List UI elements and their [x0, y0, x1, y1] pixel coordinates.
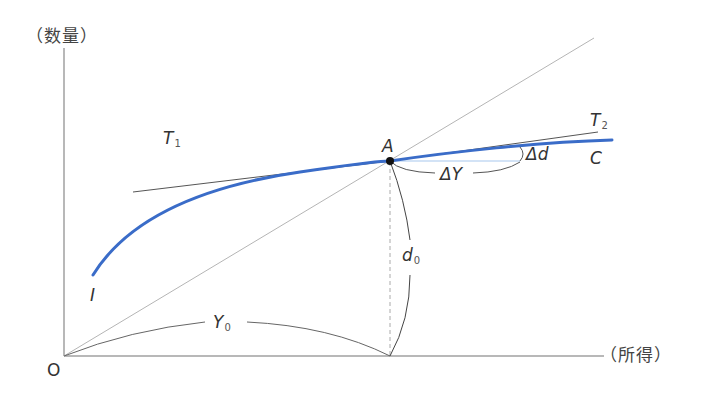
origin-label: O [47, 362, 60, 379]
d0-sub: 0 [414, 255, 420, 266]
d0-arc-bottom [390, 275, 410, 356]
delta-y-label: ΔY [440, 166, 462, 183]
curve-end-label: C [590, 150, 602, 167]
y0-arc-right [247, 322, 390, 356]
delta-d-bracket [520, 147, 523, 161]
d0-letter: d [402, 245, 413, 265]
tangent-t2-letter: T [590, 110, 600, 130]
y0-sub: 0 [224, 322, 230, 333]
tangent-t1-sub: 1 [174, 138, 180, 149]
y0-label: Y0 [213, 314, 231, 333]
tangent-t2-sub: 2 [601, 120, 607, 131]
point-a-dot [386, 157, 394, 165]
y-axis-label: （数量） [26, 28, 98, 45]
y0-letter: Y [213, 312, 223, 332]
point-a-label: A [382, 138, 394, 155]
d0-label: d0 [402, 247, 420, 266]
d0-arc-top [390, 161, 410, 240]
diagram-canvas [0, 0, 703, 400]
delta-y-brace-left [390, 161, 435, 173]
engel-curve-diagram: （数量） （所得） O A I C T1 T2 ΔY Δd Y0 d0 [0, 0, 703, 400]
x-axis-label: （所得） [600, 347, 672, 364]
tangent-t1-label: T1 [163, 130, 181, 149]
y0-arc-left [64, 322, 205, 356]
tangent-t2-label: T2 [590, 112, 608, 131]
delta-d-label: Δd [526, 146, 548, 163]
ray-from-origin [64, 38, 594, 356]
delta-y-brace-right [473, 162, 520, 173]
curve-start-label: I [90, 287, 95, 304]
tangent-t1-letter: T [163, 128, 173, 148]
